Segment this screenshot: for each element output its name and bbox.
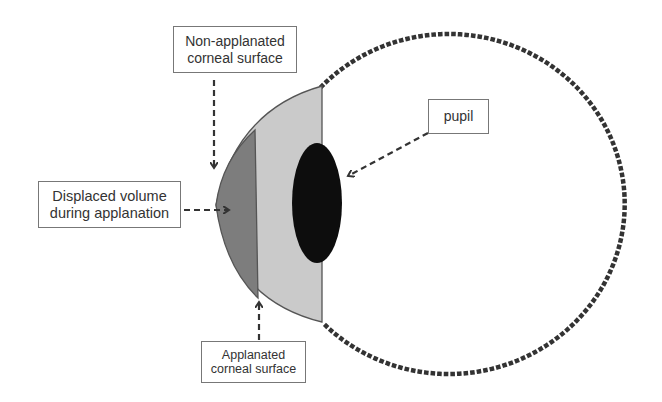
label-line: corneal surface — [211, 362, 296, 376]
label-line: Non-applanated — [185, 33, 285, 49]
label-non-applanated-corneal-surface: Non-applanated corneal surface — [173, 26, 297, 73]
label-line: pupil — [444, 108, 474, 124]
label-line: Displaced volume — [50, 188, 169, 205]
label-applanated-corneal-surface: Applanated corneal surface — [201, 341, 306, 383]
pupil-ellipse — [292, 143, 342, 263]
label-displaced-volume: Displaced volume during applanation — [38, 181, 181, 228]
eyeball-dotted-outline — [322, 34, 625, 374]
label-line: corneal surface — [185, 50, 285, 66]
arrow-pupil — [348, 133, 428, 176]
label-line: Applanated — [211, 348, 296, 362]
displaced-volume-region — [216, 130, 258, 298]
label-pupil: pupil — [428, 99, 489, 134]
label-line: during applanation — [50, 205, 169, 222]
